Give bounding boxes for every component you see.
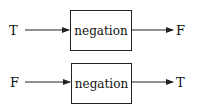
output-label-1: F	[176, 24, 185, 37]
output-label-2: T	[176, 76, 185, 89]
input-label-1: T	[9, 24, 18, 37]
negation-box-1: negation	[70, 10, 132, 51]
operation-label-2: negation	[75, 77, 128, 91]
input-label-2: F	[10, 76, 19, 89]
operation-label-1: negation	[74, 24, 127, 38]
negation-box-2: negation	[71, 63, 132, 104]
